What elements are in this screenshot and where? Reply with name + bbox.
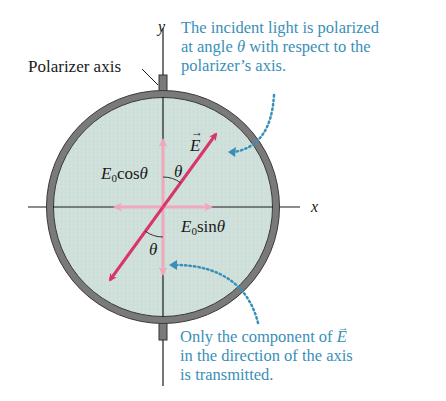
vector-arrow-icon: → [191,125,203,140]
annotation-incident-light: The incident light is polarized at angle… [181,18,379,75]
component-cos-label: E0cosθ [101,164,148,184]
y-axis-label: y [158,18,165,36]
theta-bottom-label: θ [149,240,157,260]
e-vector-label: → E [190,136,200,156]
polarizer-axis-label: Polarizer axis [28,57,121,77]
annotation-transmitted-component: Only the component of →E in the directio… [180,327,353,384]
component-sin-label: E0sinθ [181,217,225,237]
theta-top-label: θ [174,162,182,182]
x-axis-label: x [311,198,318,216]
polarizer-axis-leader [142,69,158,85]
